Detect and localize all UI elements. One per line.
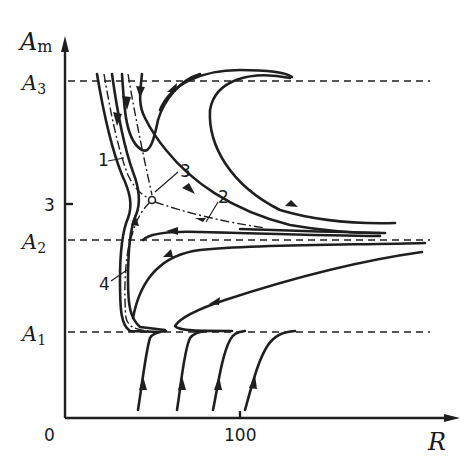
level-label-a3: A3: [20, 71, 46, 97]
arrow-icon: [195, 218, 206, 222]
arrow-icon: [209, 297, 220, 305]
x-axis-label: R: [427, 428, 446, 456]
arrow-icon: [163, 249, 173, 257]
curve-label-3: 3: [180, 161, 191, 181]
curve-labels: 1 3 2 4: [98, 150, 229, 294]
y-tick-label-3: 3: [44, 195, 55, 215]
leader-3: [155, 172, 178, 192]
a2-converging-trajectories: [143, 227, 385, 240]
top-v-trajectories: [122, 74, 380, 233]
y-axis-arrow-icon: [61, 36, 69, 52]
curve-label-4: 4: [99, 274, 110, 294]
top-c-trajectory: [160, 70, 395, 223]
separatrix-dashdot-upper: [104, 74, 152, 199]
arrow-icon: [136, 86, 145, 98]
saddle-point: [149, 197, 156, 204]
arrow-icon: [285, 200, 298, 207]
level-label-a2: A2: [20, 230, 46, 256]
lower-right-trajectories: [133, 243, 425, 331]
curve-label-2: 2: [218, 187, 229, 207]
level-label-a1: A1: [20, 322, 46, 348]
arrow-icon: [178, 376, 186, 390]
x-axis-arrow-icon: [444, 414, 460, 422]
x-tick-label-100: 100: [224, 425, 256, 445]
arrow-icon: [182, 183, 195, 194]
arrow-icon: [167, 83, 177, 92]
origin-label: 0: [44, 425, 55, 445]
phase-diagram: Am R 0 100 3 A3 A2 A1: [0, 0, 475, 472]
bottom-trajectories: [138, 331, 295, 410]
curve-label-1: 1: [98, 150, 109, 170]
arrow-icon: [139, 376, 147, 390]
y-axis-label: Am: [18, 28, 53, 56]
